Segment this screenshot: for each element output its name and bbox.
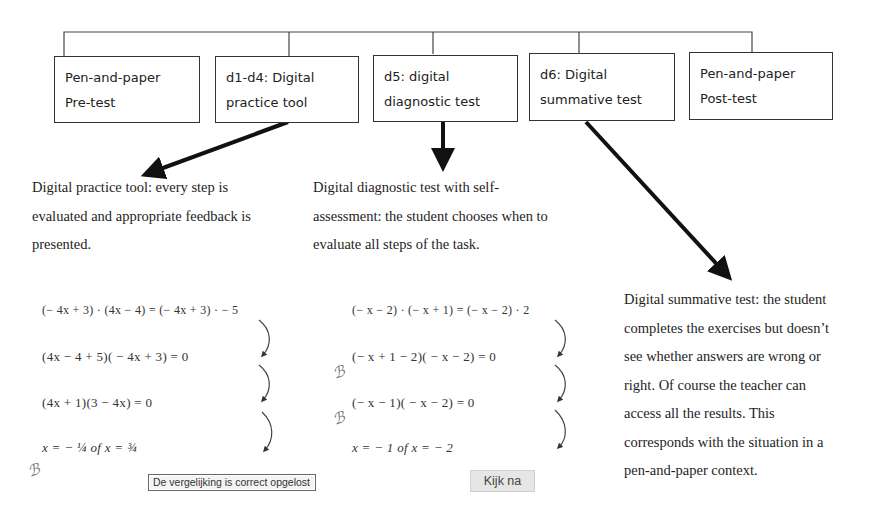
practice-step-2: (4x − 4 + 5)( − 4x + 3) = 0 [42,349,189,365]
practice-tool-description: Digital practice tool: every step is eva… [32,173,251,259]
practice-step-1: (− 4x + 3) · (4x − 4) = (− 4x + 3) · − 5 [42,303,238,318]
diagnostic-step-3: (− x − 1)( − x − 2) = 0 [352,395,475,411]
diagnostic-test-description: Digital diagnostic test with self- asses… [313,173,548,259]
description-line: right. Of course the teacher can [624,371,829,400]
diagnostic-step-1: (− x − 2) · (− x + 1) = (− x − 2) · 2 [352,303,529,318]
feedback-message: De vergelijking is correct opgelost [148,474,316,491]
description-line: see whether answers are wrong or [624,342,829,371]
description-line: completes the exercises but doesn’t [624,314,829,343]
description-line: Digital practice tool: every step is [32,173,251,202]
box-digital-diagnostic-test: d5: digital diagnostic test [373,55,518,122]
description-line: access all the results. This [624,399,829,428]
description-line: Digital diagnostic test with self- [313,173,548,202]
box-pen-and-paper-pretest: Pen-and-paper Pre-test [54,56,200,123]
description-line: corresponds with the situation in a [624,428,829,457]
practice-step-3: (4x + 1)(3 − 4x) = 0 [42,395,152,411]
arrow-to-summative-description [586,122,724,272]
practice-step-4: x = − ¼ of x = ¾ [42,440,137,456]
description-line: pen-and-paper context. [624,456,829,485]
box-label-line1: d6: Digital [540,62,674,87]
box-pen-and-paper-posttest: Pen-and-paper Post-test [689,52,833,120]
box-digital-practice-tool: d1-d4: Digital practice tool [215,56,359,123]
description-line: assessment: the student chooses when to [313,202,548,231]
description-line: Digital summative test: the student [624,285,829,314]
diagnostic-step-2: (− x + 1 − 2)( − x − 2) = 0 [352,349,496,365]
box-label-line1: Pen-and-paper [65,65,199,90]
description-line: presented. [32,230,251,259]
box-label-line2: Post-test [700,86,832,111]
check-answer-button[interactable]: Kijk na [470,470,535,492]
box-label-line1: d5: digital [384,64,517,89]
box-label-line1: d1-d4: Digital [226,65,358,90]
diagnostic-step-4: x = − 1 of x = − 2 [352,440,453,456]
arrow-to-practice-description [152,122,288,172]
box-label-line2: diagnostic test [384,89,517,114]
box-label-line1: Pen-and-paper [700,61,832,86]
box-label-line2: summative test [540,87,674,112]
box-label-line2: practice tool [226,90,358,115]
box-label-line2: Pre-test [65,90,199,115]
summative-test-description: Digital summative test: the student comp… [624,285,829,485]
box-digital-summative-test: d6: Digital summative test [529,53,675,121]
description-line: evaluate all steps of the task. [313,230,548,259]
description-line: evaluated and appropriate feedback is [32,202,251,231]
